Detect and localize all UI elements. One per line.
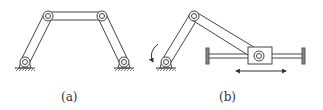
panel-a-label: (a) — [61, 90, 78, 104]
link-right — [98, 14, 128, 64]
panel-b-label: (b) — [219, 90, 236, 104]
rotation-arrow-icon — [151, 44, 158, 62]
link-top-coupler — [48, 12, 102, 20]
crank-link — [162, 14, 198, 64]
link-left — [21, 14, 52, 64]
panel-b-slider-crank — [151, 11, 305, 71]
panel-a-four-bar-linkage — [15, 11, 134, 71]
mechanism-diagram — [0, 0, 323, 110]
